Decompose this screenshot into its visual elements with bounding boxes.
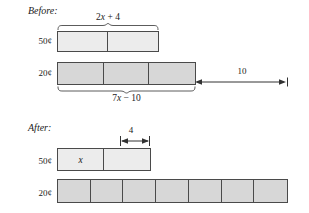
- before-20c-bar: [57, 62, 196, 85]
- after-section-label: After:: [28, 122, 51, 133]
- after-20c-cell-3: [123, 180, 156, 202]
- after-50c-cell-1: x: [58, 149, 104, 170]
- after-20c-bar: [57, 179, 288, 203]
- after-20c-coin-label: 20¢: [24, 188, 52, 198]
- after-20c-cell-7: [254, 180, 287, 202]
- before-50c-brace: [57, 23, 159, 31]
- after-20c-cell-6: [222, 180, 255, 202]
- before-section-label: Before:: [28, 5, 58, 16]
- before-20c-cell-1: [58, 63, 104, 84]
- after-50c-dimension-arrow: [119, 135, 151, 147]
- after-50c-cell-1-label: x: [78, 155, 82, 165]
- after-20c-cell-2: [91, 180, 124, 202]
- after-50c-cell-2: [104, 149, 150, 170]
- before-50c-cell-1: [58, 32, 108, 51]
- diagram-canvas: Before: 2x + 4 50¢ 20¢ 7x − 10 10 After:…: [0, 0, 309, 213]
- after-50c-coin-label: 50¢: [24, 156, 52, 166]
- after-20c-cell-1: [58, 180, 91, 202]
- before-50c-cell-2: [108, 32, 158, 51]
- before-20c-cell-3: [149, 63, 195, 84]
- after-20c-cell-5: [189, 180, 222, 202]
- after-50c-dimension-label: 4: [113, 125, 149, 135]
- before-gap-dimension-arrow: [194, 76, 290, 88]
- before-50c-bar: [57, 31, 159, 52]
- before-20c-brace-label: 7x − 10: [57, 93, 196, 103]
- before-20c-cell-2: [104, 63, 150, 84]
- before-50c-coin-label: 50¢: [24, 36, 52, 46]
- before-50c-brace-label: 2x + 4: [57, 12, 159, 22]
- before-gap-dimension-label: 10: [196, 66, 288, 76]
- after-50c-bar: x: [57, 148, 151, 171]
- before-20c-coin-label: 20¢: [24, 68, 52, 78]
- after-20c-cell-4: [156, 180, 189, 202]
